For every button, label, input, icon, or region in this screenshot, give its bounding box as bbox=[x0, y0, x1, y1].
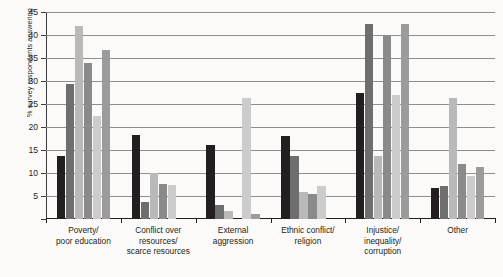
bar bbox=[299, 192, 307, 219]
bar bbox=[75, 26, 83, 219]
bar bbox=[224, 211, 232, 219]
bar-group bbox=[271, 12, 346, 219]
x-axis-category-label: Poverty/poor education bbox=[46, 225, 121, 246]
bar bbox=[317, 186, 325, 219]
bar-groups bbox=[46, 12, 495, 219]
bar-group bbox=[420, 12, 495, 219]
bar bbox=[476, 167, 484, 219]
bar bbox=[374, 156, 382, 219]
bar bbox=[308, 194, 316, 219]
category-label-line: Poverty/ bbox=[46, 225, 121, 236]
x-axis-category-label: Injustice/inequality/corruption bbox=[345, 225, 420, 257]
category-label-line: aggression bbox=[196, 236, 271, 247]
bar-chart: % survey respondents answering 510152025… bbox=[0, 0, 503, 277]
bar bbox=[365, 24, 373, 219]
bar-group bbox=[121, 12, 196, 219]
bar bbox=[281, 136, 289, 219]
x-axis-category-label: Externalaggression bbox=[196, 225, 271, 246]
x-tick-mark bbox=[196, 218, 197, 223]
y-tick-label: 5 bbox=[16, 191, 38, 201]
bar bbox=[251, 214, 259, 219]
y-tick-label: 25 bbox=[16, 99, 38, 109]
bar bbox=[356, 93, 364, 220]
bar bbox=[431, 188, 439, 219]
category-label-line: External bbox=[196, 225, 271, 236]
bar bbox=[392, 95, 400, 219]
x-tick-mark bbox=[420, 218, 421, 223]
bar bbox=[93, 116, 101, 219]
y-tick-label: 10 bbox=[16, 168, 38, 178]
x-tick-mark bbox=[46, 218, 47, 223]
bar bbox=[150, 173, 158, 219]
category-label-line: corruption bbox=[345, 246, 420, 257]
x-axis-category-label: Other bbox=[420, 225, 495, 236]
bar bbox=[467, 176, 475, 219]
bar bbox=[102, 50, 110, 219]
category-label-line: inequality/ bbox=[345, 236, 420, 247]
y-tick-label: 30 bbox=[16, 76, 38, 86]
bar bbox=[242, 98, 250, 219]
bar bbox=[168, 185, 176, 220]
y-tick-label: 40 bbox=[16, 30, 38, 40]
x-tick-mark bbox=[345, 218, 346, 223]
x-axis-category-labels: Poverty/poor educationConflict overresou… bbox=[46, 225, 495, 275]
bar-group bbox=[196, 12, 271, 219]
y-tick-label: 45 bbox=[16, 7, 38, 17]
bar bbox=[401, 24, 409, 219]
category-label-line: resources/ bbox=[121, 236, 196, 247]
category-label-line: poor education bbox=[46, 236, 121, 247]
x-tick-mark bbox=[495, 218, 496, 223]
category-label-line: scarce resources bbox=[121, 246, 196, 257]
bar bbox=[215, 205, 223, 219]
bar-group bbox=[46, 12, 121, 219]
x-axis-category-label: Ethnic conflict/religion bbox=[271, 225, 346, 246]
bar bbox=[440, 186, 448, 219]
x-tick-mark bbox=[121, 218, 122, 223]
bar bbox=[66, 84, 74, 219]
bar-group bbox=[345, 12, 420, 219]
bar bbox=[206, 145, 214, 219]
y-tick-label: 35 bbox=[16, 53, 38, 63]
category-label-line: Conflict over bbox=[121, 225, 196, 236]
bar bbox=[383, 36, 391, 219]
plot-area: 51015202530354045 bbox=[46, 12, 495, 219]
bar bbox=[449, 98, 457, 219]
bar bbox=[57, 156, 65, 219]
bar bbox=[141, 202, 149, 219]
category-label-line: Ethnic conflict/ bbox=[271, 225, 346, 236]
y-tick-label: 15 bbox=[16, 145, 38, 155]
bar bbox=[458, 164, 466, 219]
category-label-line: religion bbox=[271, 236, 346, 247]
bar bbox=[84, 63, 92, 219]
bar bbox=[159, 184, 167, 219]
y-tick-label: 20 bbox=[16, 122, 38, 132]
category-label-line: Injustice/ bbox=[345, 225, 420, 236]
bar bbox=[132, 135, 140, 219]
bar bbox=[290, 156, 298, 219]
x-tick-mark bbox=[271, 218, 272, 223]
x-axis-category-label: Conflict overresources/scarce resources bbox=[121, 225, 196, 257]
category-label-line: Other bbox=[420, 225, 495, 236]
